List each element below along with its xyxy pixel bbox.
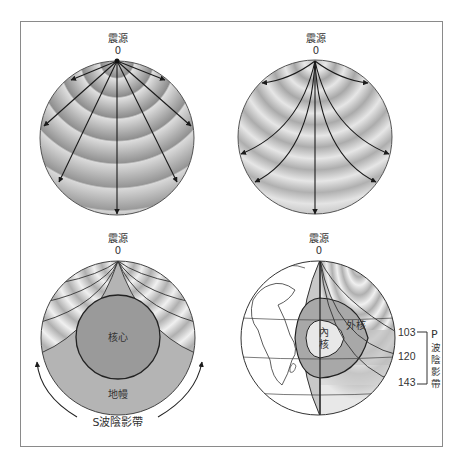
source-label: 震源 xyxy=(306,32,326,44)
p-shadow-char-4: 帶 xyxy=(431,378,441,389)
p-shadow-char-3: 影 xyxy=(431,366,441,377)
seismic-wave-diagram: 震源 0 震源 0 震源 0 xyxy=(0,0,461,465)
panel-p-wave-shadow: 震源 0 xyxy=(241,232,441,416)
mantle-label: 地幔 xyxy=(108,388,128,400)
p-shadow-char-2: 陰 xyxy=(431,354,441,365)
epicenter-dot xyxy=(115,59,120,64)
core-label: 核心 xyxy=(108,331,128,343)
panel-straight-rays: 震源 0 xyxy=(40,32,194,215)
inner-core-label-1: 內 xyxy=(319,327,329,338)
angle-120: 120 xyxy=(398,350,416,362)
s-wave-shadow-label: S波陰影帶 xyxy=(93,415,144,429)
outer-core-label: 外核 xyxy=(346,319,366,331)
angle-143: 143 xyxy=(398,376,416,388)
source-value: 0 xyxy=(313,45,319,56)
source-value: 0 xyxy=(115,245,121,256)
source-value: 0 xyxy=(316,245,322,256)
source-value: 0 xyxy=(115,45,121,56)
p-label: P xyxy=(431,328,438,341)
angle-103: 103 xyxy=(398,326,416,338)
source-label: 震源 xyxy=(108,32,128,44)
shadow-bracket xyxy=(417,332,427,384)
source-label: 震源 xyxy=(309,232,329,244)
inner-core-label-2: 核 xyxy=(319,338,329,350)
source-label: 震源 xyxy=(108,232,128,244)
panel-s-wave-shadow: 震源 0 核心 地幔 S波陰影帶 xyxy=(37,232,202,429)
panel-curved-rays: 震源 0 xyxy=(238,32,392,214)
p-shadow-char-1: 波 xyxy=(431,342,441,353)
